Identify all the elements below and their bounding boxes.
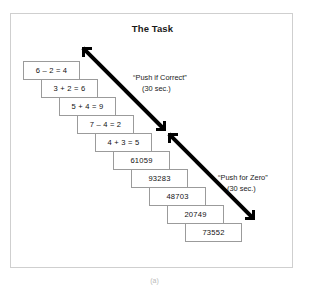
task-card-label: 3 + 2 = 6 <box>54 84 86 93</box>
task-card-label: 48703 <box>166 192 188 201</box>
annotation-upper-line2: (30 sec.) <box>133 83 187 94</box>
figure-caption: (a) <box>0 277 309 286</box>
task-card: 3 + 2 = 6 <box>41 79 98 98</box>
annotation-lower-line2: (30 sec.) <box>218 183 268 194</box>
task-card-label: 5 + 4 = 9 <box>72 102 104 111</box>
task-card: 20749 <box>167 205 224 224</box>
task-card: 73552 <box>185 223 242 242</box>
figure-title: The Task <box>11 23 294 34</box>
annotation-lower-line1: “Push for Zero” <box>218 173 268 182</box>
figure-the-task: The Task 6 – 2 = 43 + 2 = 65 + 4 = 97 – … <box>0 0 309 290</box>
arrow-upper-head-start <box>82 47 92 57</box>
task-card: 61059 <box>113 151 170 170</box>
task-card: 93283 <box>131 169 188 188</box>
task-card-label: 61059 <box>130 156 152 165</box>
task-card: 4 + 3 = 5 <box>95 133 152 152</box>
task-card-label: 7 – 4 = 2 <box>90 120 122 129</box>
task-card-label: 20749 <box>184 210 206 219</box>
task-card-label: 93283 <box>148 174 170 183</box>
task-card: 6 – 2 = 4 <box>23 61 80 80</box>
annotation-upper-line1: “Push if Correct” <box>133 73 187 82</box>
task-card-label: 4 + 3 = 5 <box>108 138 140 147</box>
task-card: 48703 <box>149 187 206 206</box>
arrow-upper-head-end <box>156 121 166 131</box>
annotation-push-for-zero: “Push for Zero” (30 sec.) <box>218 172 268 194</box>
task-card: 5 + 4 = 9 <box>59 97 116 116</box>
task-card-label: 6 – 2 = 4 <box>36 66 68 75</box>
task-card: 7 – 4 = 2 <box>77 115 134 134</box>
arrow-lower-head-end <box>245 210 255 220</box>
annotation-push-if-correct: “Push if Correct” (30 sec.) <box>133 72 187 94</box>
arrow-lower-head-start <box>168 133 178 143</box>
task-card-label: 73552 <box>202 228 224 237</box>
